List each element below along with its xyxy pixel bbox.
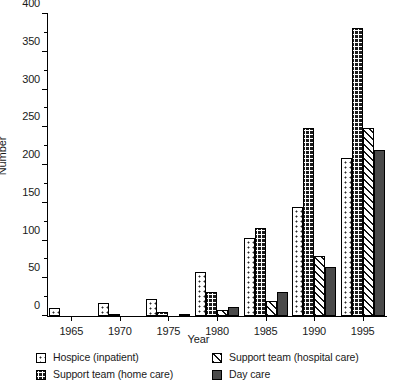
bar-1995-support-team-home-care bbox=[352, 28, 363, 316]
y-axis-tick bbox=[42, 51, 47, 52]
bar-group-bars bbox=[49, 14, 93, 316]
y-axis-tick-label: 200 bbox=[22, 149, 40, 160]
y-axis-tick-label: 250 bbox=[22, 111, 40, 122]
y-axis-tick bbox=[42, 315, 47, 316]
x-axis-tick bbox=[314, 316, 315, 321]
x-axis-tick-label: 1975 bbox=[157, 325, 181, 337]
y-axis-tick-label: 350 bbox=[22, 35, 40, 46]
bar-group-1975 bbox=[146, 14, 190, 316]
legend-item: Support team (home care) bbox=[36, 369, 212, 380]
legend-label: Support team (home care) bbox=[53, 369, 173, 380]
bar-1970-hospice-inpatient bbox=[98, 303, 109, 316]
x-axis-tick bbox=[363, 316, 364, 321]
bar-group-bars bbox=[195, 14, 239, 316]
y-axis-minor-tick bbox=[44, 258, 47, 259]
y-axis-tick bbox=[42, 13, 47, 14]
x-axis-tick bbox=[168, 316, 169, 321]
bar-1980-day-care bbox=[228, 307, 239, 316]
y-axis-tick bbox=[42, 202, 47, 203]
y-axis-tick bbox=[42, 126, 47, 127]
bar-1985-day-care bbox=[277, 292, 288, 316]
bar-1980-support-team-hospital-care bbox=[217, 310, 228, 316]
bar-1965-hospice-inpatient bbox=[49, 308, 60, 316]
x-axis-tick-label: 1990 bbox=[302, 325, 326, 337]
legend-item: Day care bbox=[212, 369, 388, 380]
bar-group-1980 bbox=[195, 14, 239, 316]
bar-1975-day-care bbox=[179, 314, 190, 316]
legend-swatch-icon bbox=[212, 353, 222, 363]
y-axis-tick-label: 0 bbox=[34, 300, 40, 311]
bar-1990-support-team-home-care bbox=[303, 128, 314, 316]
bar-1980-hospice-inpatient bbox=[195, 272, 206, 316]
legend-item: Hospice (inpatient) bbox=[36, 352, 212, 363]
x-axis-tick-label: 1985 bbox=[254, 325, 278, 337]
bar-chart-figure: Number Year 0501001502002503003504001965… bbox=[0, 0, 397, 388]
bar-1990-support-team-hospital-care bbox=[314, 256, 325, 316]
legend-label: Support team (hospital care) bbox=[229, 352, 359, 363]
bar-1990-day-care bbox=[325, 267, 336, 316]
bar-1985-support-team-home-care bbox=[255, 228, 266, 316]
x-axis-tick-label: 1970 bbox=[108, 325, 132, 337]
chart-legend: Hospice (inpatient)Support team (hospita… bbox=[36, 349, 386, 383]
x-axis-tick-label: 1980 bbox=[205, 325, 229, 337]
bar-group-1965 bbox=[49, 14, 93, 316]
plot-area: 0501001502002503003504001965197019751980… bbox=[47, 14, 387, 316]
bar-group-bars bbox=[244, 14, 288, 316]
y-axis-tick bbox=[42, 240, 47, 241]
bar-group-1995 bbox=[341, 14, 385, 316]
y-axis-tick-label: 150 bbox=[22, 186, 40, 197]
y-axis-tick-label: 300 bbox=[22, 73, 40, 84]
y-axis-tick bbox=[42, 89, 47, 90]
bar-group-bars bbox=[341, 14, 385, 316]
y-axis-minor-tick bbox=[44, 183, 47, 184]
y-axis-minor-tick bbox=[44, 70, 47, 71]
bar-group-1985 bbox=[244, 14, 288, 316]
bar-1995-hospice-inpatient bbox=[341, 158, 352, 316]
x-axis-tick-label: 1965 bbox=[59, 325, 83, 337]
y-axis-tick-label: 400 bbox=[22, 0, 40, 9]
x-axis-tick bbox=[120, 316, 121, 321]
x-axis-tick bbox=[71, 316, 72, 321]
bar-1985-support-team-hospital-care bbox=[266, 301, 277, 316]
y-axis-tick-label: 50 bbox=[28, 262, 40, 273]
bar-1980-support-team-home-care bbox=[206, 292, 217, 316]
bar-group-bars bbox=[98, 14, 142, 316]
y-axis-minor-tick bbox=[44, 107, 47, 108]
y-axis-title: Number bbox=[0, 137, 8, 176]
x-axis-tick bbox=[217, 316, 218, 321]
x-axis-tick bbox=[266, 316, 267, 321]
bar-group-bars bbox=[146, 14, 190, 316]
y-axis-tick bbox=[42, 277, 47, 278]
legend-swatch-icon bbox=[36, 353, 46, 363]
legend-swatch-icon bbox=[36, 370, 46, 380]
y-axis-minor-tick bbox=[44, 32, 47, 33]
x-axis-tick-label: 1995 bbox=[351, 325, 375, 337]
y-axis-tick bbox=[42, 164, 47, 165]
bar-1990-hospice-inpatient bbox=[292, 207, 303, 316]
y-axis-minor-tick bbox=[44, 145, 47, 146]
y-axis-tick-label: 100 bbox=[22, 224, 40, 235]
bar-group-1990 bbox=[292, 14, 336, 316]
legend-label: Day care bbox=[229, 369, 270, 380]
bar-1970-support-team-home-care bbox=[109, 314, 120, 316]
bar-1985-hospice-inpatient bbox=[244, 238, 255, 316]
bar-1975-support-team-home-care bbox=[157, 312, 168, 316]
bar-group-1970 bbox=[98, 14, 142, 316]
bar-group-bars bbox=[292, 14, 336, 316]
bar-1995-day-care bbox=[374, 150, 385, 316]
legend-label: Hospice (inpatient) bbox=[53, 352, 139, 363]
bar-1995-support-team-hospital-care bbox=[363, 128, 374, 316]
legend-swatch-icon bbox=[212, 370, 222, 380]
y-axis-minor-tick bbox=[44, 221, 47, 222]
legend-item: Support team (hospital care) bbox=[212, 352, 388, 363]
y-axis-minor-tick bbox=[44, 296, 47, 297]
bar-1975-hospice-inpatient bbox=[146, 299, 157, 316]
